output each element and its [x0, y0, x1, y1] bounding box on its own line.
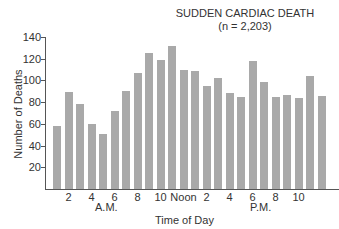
x-axis [45, 189, 339, 190]
bar [203, 86, 211, 189]
bar [180, 70, 188, 189]
y-tick-label: 100 [19, 75, 41, 86]
bar [295, 98, 303, 189]
bar [65, 92, 73, 189]
y-tick [41, 102, 45, 103]
bar [53, 126, 61, 189]
bar [283, 95, 291, 189]
y-tick [41, 59, 45, 60]
bar [318, 96, 326, 189]
title-text: SUDDEN CARDIAC DEATH [150, 7, 339, 20]
am-label: A.M. [95, 201, 118, 213]
y-axis [45, 37, 46, 189]
y-tick-label: 120 [19, 54, 41, 65]
y-tick [41, 124, 45, 125]
bar [134, 73, 142, 189]
bar [260, 82, 268, 189]
chart-title: SUDDEN CARDIAC DEATH (n = 2,203) [150, 7, 339, 33]
y-tick [41, 80, 45, 81]
bar [111, 111, 119, 189]
x-axis-label: Time of Day [155, 214, 214, 226]
bar [99, 134, 107, 189]
bar [88, 124, 96, 189]
y-tick-label: 140 [19, 32, 41, 43]
y-tick [41, 146, 45, 147]
bar [191, 71, 199, 189]
bar [249, 61, 257, 189]
bar [272, 97, 280, 189]
x-tick-label: 10 [284, 191, 314, 203]
bar [306, 76, 314, 189]
y-tick [41, 37, 45, 38]
y-tick-label: 60 [19, 119, 41, 130]
y-tick-label: 80 [19, 97, 41, 108]
bar [168, 46, 176, 189]
plot-area: 20406080100120140 [45, 37, 339, 189]
bar [226, 93, 234, 189]
bar [145, 53, 153, 189]
y-tick [41, 167, 45, 168]
bar [76, 104, 84, 189]
y-tick-label: 20 [19, 162, 41, 173]
bar [157, 60, 165, 189]
y-tick-label: 40 [19, 141, 41, 152]
bar [214, 78, 222, 189]
subtitle-text: (n = 2,203) [150, 20, 339, 33]
bar [122, 91, 130, 189]
pm-label: P.M. [250, 201, 271, 213]
bar [237, 97, 245, 189]
